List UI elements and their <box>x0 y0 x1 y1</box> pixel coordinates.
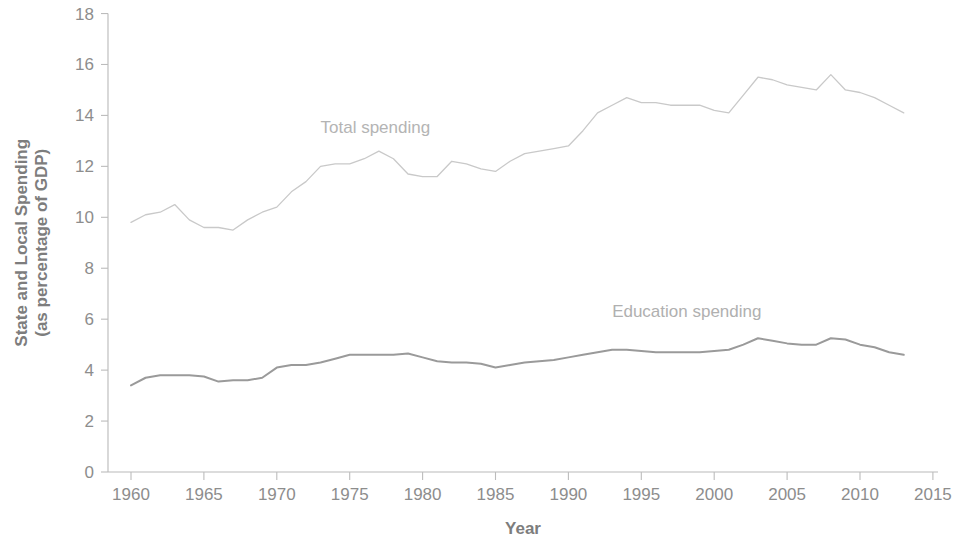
y-tick-label: 4 <box>85 361 94 380</box>
y-tick-label: 8 <box>85 259 94 278</box>
x-tick-label: 1960 <box>112 485 150 504</box>
series-lines <box>131 75 904 386</box>
y-tick-label: 12 <box>75 157 94 176</box>
x-axis-tick-labels: 1960196519701975198019851990199520002005… <box>112 485 952 504</box>
y-axis-title-line1: State and Local Spending <box>12 139 31 347</box>
y-tick-label: 6 <box>85 310 94 329</box>
x-tick-label: 2000 <box>695 485 733 504</box>
x-tick-label: 2005 <box>768 485 806 504</box>
series-label-education-spending: Education spending <box>612 302 761 321</box>
series-line-total-spending <box>131 75 904 230</box>
line-chart-canvas: 024681012141618 196019651970197519801985… <box>0 0 956 545</box>
x-tick-label: 1970 <box>258 485 296 504</box>
y-axis-tick-labels: 024681012141618 <box>75 5 94 482</box>
y-tick-label: 10 <box>75 208 94 227</box>
chart-figure: 024681012141618 196019651970197519801985… <box>0 0 956 545</box>
x-tick-label: 1965 <box>185 485 223 504</box>
x-tick-label: 1995 <box>622 485 660 504</box>
x-axis-ticks <box>131 472 933 480</box>
y-tick-label: 0 <box>85 463 94 482</box>
y-tick-label: 18 <box>75 5 94 24</box>
x-tick-label: 2015 <box>914 485 952 504</box>
y-tick-label: 16 <box>75 55 94 74</box>
y-tick-label: 14 <box>75 106 94 125</box>
y-axis-ticks <box>101 14 108 472</box>
x-tick-label: 1975 <box>331 485 369 504</box>
y-axis-title-line2: (as percentage of GDP) <box>32 149 51 337</box>
series-line-education-spending <box>131 338 904 385</box>
x-tick-label: 1980 <box>404 485 442 504</box>
y-tick-label: 2 <box>85 412 94 431</box>
x-tick-label: 1990 <box>549 485 587 504</box>
series-label-total-spending: Total spending <box>321 118 431 137</box>
x-tick-label: 1985 <box>477 485 515 504</box>
x-axis-title: Year <box>505 519 541 538</box>
x-tick-label: 2010 <box>841 485 879 504</box>
